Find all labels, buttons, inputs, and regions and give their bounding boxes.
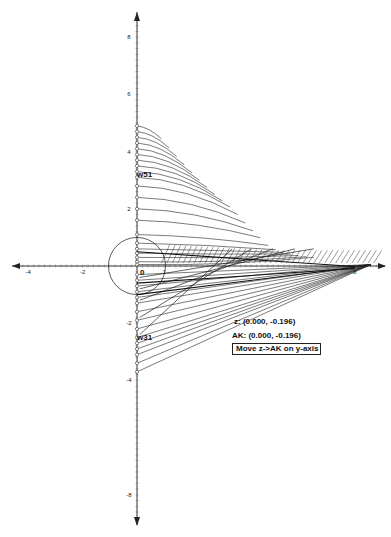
- z-readout: z: (0.000, -0.196): [234, 317, 295, 326]
- sample-point: [135, 296, 138, 299]
- x-axis-left-arrow-icon: [12, 263, 20, 269]
- sample-point: [135, 370, 138, 373]
- sample-point: [135, 256, 138, 259]
- y-tick-label: -2: [126, 320, 132, 326]
- sample-point: [135, 279, 138, 282]
- x-tick-label: -2: [80, 269, 86, 275]
- sample-point: [135, 219, 138, 222]
- flow-curve: [137, 186, 238, 215]
- y-axis-down-arrow-icon: [134, 517, 140, 526]
- y-tick-label: 6: [127, 91, 131, 97]
- flow-curve: [137, 137, 177, 156]
- sample-point: [135, 353, 138, 356]
- move-z-to-ak-button[interactable]: Move z->AK on y-axis: [232, 343, 321, 355]
- sample-point: [135, 263, 138, 266]
- sample-point: [135, 242, 138, 245]
- sample-point: [135, 141, 138, 144]
- sample-point: [135, 319, 138, 322]
- y-tick-label: -8: [126, 492, 132, 498]
- label-w51: w51: [137, 170, 152, 179]
- sample-point: [135, 147, 138, 150]
- sample-point: [135, 233, 138, 236]
- sample-point: [135, 207, 138, 210]
- sample-point: [135, 247, 138, 250]
- y-tick-label: 2: [127, 206, 131, 212]
- sample-point: [135, 284, 138, 287]
- x-axis-right-arrow-icon: [378, 263, 386, 269]
- sample-point: [135, 124, 138, 127]
- sample-point: [135, 302, 138, 305]
- complex-plane-plot[interactable]: -4-2188642-2-4-8: [0, 0, 391, 537]
- sample-point: [135, 347, 138, 350]
- y-tick-label: 4: [127, 149, 131, 155]
- sample-point: [135, 362, 138, 365]
- sample-point: [135, 153, 138, 156]
- sample-point: [135, 342, 138, 345]
- sample-point: [135, 273, 138, 276]
- ak-readout: AK: (0.000, -0.196): [232, 331, 301, 340]
- flow-curve: [137, 209, 253, 231]
- sample-point: [135, 159, 138, 162]
- y-tick-label: -4: [126, 377, 132, 383]
- sample-point: [135, 164, 138, 167]
- label-origin: 0: [140, 268, 144, 277]
- sample-point: [135, 184, 138, 187]
- sample-point: [135, 130, 138, 133]
- flow-curve: [137, 132, 169, 148]
- y-axis-up-arrow-icon: [134, 12, 140, 21]
- sample-point: [135, 327, 138, 330]
- x-tick-label: -4: [26, 269, 32, 275]
- label-w31: w31: [137, 333, 152, 342]
- sample-point: [135, 136, 138, 139]
- y-tick-label: 8: [127, 34, 131, 40]
- sample-point: [135, 310, 138, 313]
- sample-point: [135, 290, 138, 293]
- sample-point: [135, 196, 138, 199]
